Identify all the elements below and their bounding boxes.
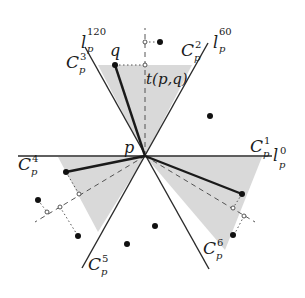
label-c4: C 4 p [18, 153, 38, 177]
projection-ll-3 [60, 207, 78, 236]
svg-text:p: p [79, 64, 86, 75]
svg-text:C: C [18, 154, 31, 174]
svg-text:1: 1 [264, 135, 270, 146]
label-c1: C 1 p [250, 135, 270, 159]
label-l120: l 120 p [81, 26, 106, 54]
svg-text:p: p [87, 43, 94, 54]
svg-text:120: 120 [87, 26, 106, 37]
svg-text:p: p [219, 43, 226, 54]
label-t-p-q: t(p,q) [146, 70, 188, 88]
label-l60: l 60 p [213, 26, 232, 54]
svg-text:p: p [194, 52, 201, 63]
label-c3: C 3 p [66, 51, 86, 75]
svg-text:6: 6 [217, 237, 223, 248]
svg-text:3: 3 [80, 51, 86, 62]
svg-text:0: 0 [280, 145, 286, 156]
svg-text:p: p [31, 166, 38, 177]
shaded-cone-lower-left [58, 156, 145, 232]
svg-text:4: 4 [32, 153, 38, 164]
label-c5: C 5 p [88, 253, 108, 277]
svg-text:l: l [81, 33, 86, 52]
svg-text:p: p [101, 266, 108, 277]
shaded-cone-lower-right [145, 156, 262, 250]
svg-text:p: p [263, 148, 270, 159]
svg-text:p: p [216, 250, 223, 261]
svg-text:l: l [213, 33, 218, 52]
svg-text:C: C [66, 52, 79, 72]
label-l0: l 0 p [273, 145, 286, 170]
label-q: q [110, 41, 120, 60]
svg-text:C: C [203, 238, 216, 258]
svg-text:5: 5 [102, 253, 108, 264]
svg-text:2: 2 [195, 39, 201, 50]
label-p: p [124, 138, 134, 157]
svg-text:l: l [273, 146, 278, 165]
svg-text:C: C [181, 40, 194, 60]
cone-diagram: p q t(p,q) l 0 p l 60 p l 120 p C 1 p C … [0, 0, 305, 298]
label-c2: C 2 p [181, 39, 201, 63]
svg-text:60: 60 [219, 26, 232, 37]
svg-text:C: C [88, 254, 101, 274]
svg-text:p: p [279, 159, 286, 170]
svg-text:C: C [250, 136, 263, 156]
label-c6: C 6 p [203, 237, 223, 261]
